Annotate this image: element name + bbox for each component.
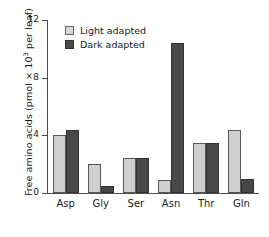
legend: Light adapted Dark adapted — [65, 24, 146, 52]
bar-gly-light — [88, 164, 101, 193]
legend-swatch-dark-icon — [65, 40, 74, 49]
bar-ser-light — [123, 158, 136, 193]
bar-group-thr — [193, 20, 219, 193]
x-tick-label-gly: Gly — [85, 198, 117, 209]
legend-item-light-adapted: Light adapted — [65, 24, 146, 36]
bar-asn-light — [158, 180, 171, 193]
y-axis-title-exponent: 3 — [22, 52, 30, 56]
bar-gln-light — [228, 130, 241, 193]
legend-label-dark-adapted: Dark adapted — [80, 39, 145, 50]
bar-gln-dark — [241, 179, 254, 193]
y-axis-title: Free amino acids (pmol × 103 per leaf) — [22, 16, 34, 196]
legend-label-light-adapted: Light adapted — [80, 25, 146, 36]
x-tick-label-thr: Thr — [190, 198, 222, 209]
legend-item-dark-adapted: Dark adapted — [65, 38, 146, 50]
bar-asp-light — [53, 135, 66, 193]
bar-group-asn — [158, 20, 184, 193]
bar-asp-dark — [66, 130, 79, 193]
y-tick-8: 8 — [42, 78, 47, 79]
bar-thr-light — [193, 143, 206, 193]
y-tick-4: 4 — [42, 135, 47, 136]
x-tick-label-asn: Asn — [155, 198, 187, 209]
bar-thr-dark — [206, 143, 219, 193]
legend-swatch-light-icon — [65, 26, 74, 35]
y-tick-label-0: 0 — [33, 187, 39, 197]
y-tick-12: 12 — [42, 20, 47, 21]
x-tick-label-ser: Ser — [120, 198, 152, 209]
x-tick-label-asp: Asp — [50, 198, 82, 209]
x-tick-label-gln: Gln — [225, 198, 257, 209]
y-tick-label-4: 4 — [33, 129, 39, 139]
x-axis-tick-labels: Asp Gly Ser Asn Thr Gln — [48, 198, 259, 209]
y-tick-label-8: 8 — [33, 72, 39, 82]
bar-ser-dark — [136, 158, 149, 193]
bar-group-gln — [228, 20, 254, 193]
bar-gly-dark — [101, 186, 114, 193]
bar-asn-dark — [171, 43, 184, 193]
bar-chart: Free amino acids (pmol × 103 per leaf) 1… — [0, 0, 269, 237]
y-tick-0: 0 — [42, 193, 47, 194]
y-tick-label-12: 12 — [28, 14, 39, 24]
x-axis-line — [47, 193, 259, 194]
